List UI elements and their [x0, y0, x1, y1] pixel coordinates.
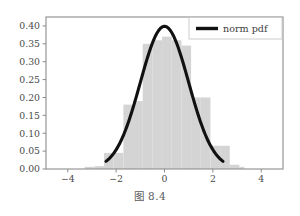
- y-axis-tick-label: 0.25: [19, 74, 40, 85]
- y-axis-tick-label: 0.40: [19, 20, 40, 31]
- x-axis-ticks: −4−2024: [61, 169, 264, 184]
- histogram-bar: [172, 40, 182, 169]
- y-axis-tick-label: 0.30: [19, 56, 40, 67]
- histogram-bar: [220, 146, 230, 169]
- histogram-bar: [133, 101, 143, 169]
- y-axis-ticks: 0.000.050.100.150.200.250.300.350.40: [19, 20, 46, 174]
- histogram-chart: 0.000.050.100.150.200.250.300.350.40 −4−…: [0, 0, 300, 216]
- x-axis-tick-label: −4: [61, 173, 75, 184]
- x-axis-tick-label: −2: [109, 173, 123, 184]
- figure-container: 0.000.050.100.150.200.250.300.350.40 −4−…: [0, 0, 300, 216]
- legend-entry-label: norm pdf: [223, 23, 269, 34]
- histogram-bar: [152, 40, 162, 169]
- x-axis-tick-label: 4: [258, 173, 264, 184]
- x-axis-tick-label: 0: [162, 173, 168, 184]
- y-axis-tick-label: 0.35: [19, 38, 40, 49]
- legend: norm pdf: [189, 18, 282, 40]
- figure-caption: 图 8.4: [0, 188, 300, 203]
- x-axis-tick-label: 2: [210, 173, 216, 184]
- histogram-bar: [162, 37, 172, 169]
- y-axis-tick-label: 0.05: [19, 145, 40, 156]
- y-axis-tick-label: 0.10: [19, 128, 40, 139]
- y-axis-tick-label: 0.15: [19, 110, 40, 121]
- y-axis-tick-label: 0.20: [19, 92, 40, 103]
- histogram-bar: [230, 165, 240, 169]
- y-axis-tick-label: 0.00: [19, 163, 40, 174]
- histogram-bar: [114, 153, 124, 169]
